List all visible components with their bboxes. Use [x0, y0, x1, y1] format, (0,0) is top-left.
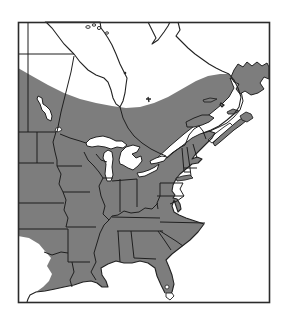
map-canvas — [0, 0, 288, 317]
newfoundland — [231, 62, 269, 95]
range-map — [0, 0, 288, 317]
lake-okeechobee — [165, 285, 169, 289]
quebec-lake-speck — [124, 72, 127, 75]
